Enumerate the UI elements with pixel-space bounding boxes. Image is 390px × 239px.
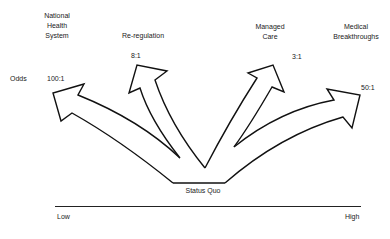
likelihood-axis-line bbox=[55, 206, 361, 207]
axis-high-label: High bbox=[345, 212, 359, 222]
arrows-graphic bbox=[0, 0, 390, 239]
axis-low-label: Low bbox=[57, 212, 70, 222]
status-quo-label: Status Quo bbox=[185, 186, 220, 196]
